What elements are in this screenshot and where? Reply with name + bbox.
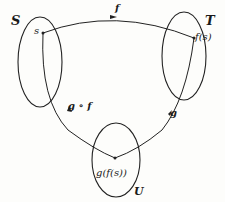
arrow-gof xyxy=(43,33,115,158)
arrow-f xyxy=(43,21,194,38)
arrow-f-label: f xyxy=(115,3,119,13)
set-T-label: T xyxy=(205,14,215,27)
set-S-label: S xyxy=(11,14,20,27)
set-U-ellipse xyxy=(92,123,140,197)
point-s xyxy=(42,32,45,35)
set-S-ellipse xyxy=(18,17,62,107)
set-U-label: U xyxy=(134,186,144,197)
arrow-gof-label: g ∘ f xyxy=(68,101,91,111)
point-s-label: s xyxy=(34,26,39,36)
arrow-g xyxy=(115,38,194,158)
arrow-f-head xyxy=(110,15,117,19)
arrow-g-label: g xyxy=(170,108,177,118)
point-gfs xyxy=(114,157,117,160)
point-fs-label: f(s) xyxy=(195,32,212,42)
point-gfs-label: g(f(s)) xyxy=(96,168,127,178)
